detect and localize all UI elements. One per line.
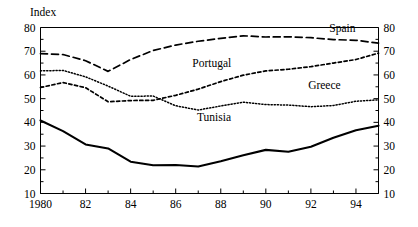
series-line-tunisia [41,120,379,166]
y-tick-label-right: 60 [384,69,396,81]
x-tick-label: 94 [350,198,362,210]
series-label-portugal: Portugal [192,57,231,70]
y-tick-label-right: 70 [384,45,396,57]
y-tick-label-left: 50 [24,93,36,105]
y-tick-label-left: 70 [24,45,36,57]
y-tick-label-left: 80 [24,22,36,34]
chart-figure: 8070605040302010807060504030201019808284… [0,0,418,227]
series-label-spain: Spain [329,22,355,35]
y-tick-label-right: 30 [384,140,396,152]
y-axis-title: Index [30,6,56,18]
x-tick-label: 86 [170,198,182,210]
y-tick-label-right: 10 [384,188,396,200]
series-lines [41,36,379,167]
series-label-tunisia: Tunisia [197,111,231,123]
series-label-greece: Greece [308,79,341,91]
y-tick-label-left: 40 [24,116,36,128]
x-tick-label: 84 [125,198,137,210]
x-tick-label: 92 [305,198,317,210]
y-tick-label-left: 30 [24,140,36,152]
x-tick-label: 82 [80,198,92,210]
x-tick-label: 88 [215,198,227,210]
x-tick-label: 1980 [29,198,52,210]
y-tick-label-left: 20 [24,164,36,176]
y-tick-label-right: 80 [384,22,396,34]
y-tick-label-left: 60 [24,69,36,81]
x-tick-label: 90 [260,198,272,210]
y-tick-label-right: 50 [384,93,396,105]
y-tick-label-right: 20 [384,164,396,176]
y-tick-label-right: 40 [384,116,396,128]
line-chart: 8070605040302010807060504030201019808284… [0,0,418,227]
